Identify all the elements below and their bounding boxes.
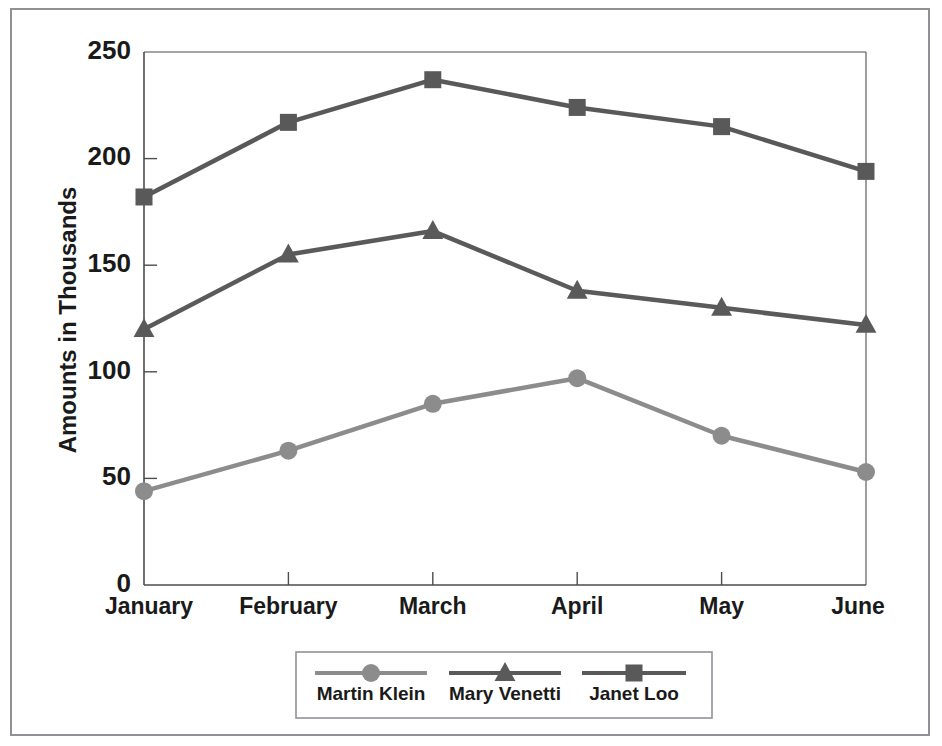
x-tick-label: March bbox=[399, 593, 467, 619]
series-martin-klein bbox=[135, 369, 875, 500]
legend-label: Mary Venetti bbox=[449, 683, 561, 704]
data-point-marker bbox=[422, 220, 443, 239]
x-axis-tick-marks bbox=[288, 572, 721, 585]
x-tick-label: February bbox=[239, 593, 338, 619]
data-point-marker bbox=[713, 427, 731, 445]
data-point-marker bbox=[135, 482, 153, 500]
data-point-marker bbox=[569, 99, 586, 116]
series-line bbox=[144, 231, 866, 329]
series-line bbox=[144, 378, 866, 491]
chart-page: Amounts in Thousands 050100150200250 Jan… bbox=[0, 0, 942, 746]
data-point-marker bbox=[858, 163, 875, 180]
data-point-marker bbox=[136, 188, 153, 205]
series-janet-loo bbox=[136, 71, 875, 205]
data-point-marker bbox=[713, 118, 730, 135]
y-tick-label: 250 bbox=[88, 35, 131, 65]
x-tick-label: January bbox=[105, 593, 193, 619]
circle-marker-icon bbox=[362, 664, 380, 682]
line-chart: Amounts in Thousands 050100150200250 Jan… bbox=[0, 0, 942, 746]
legend-label: Martin Klein bbox=[317, 683, 426, 704]
x-tick-label: April bbox=[551, 593, 603, 619]
data-point-marker bbox=[568, 369, 586, 387]
y-axis-label: Amounts in Thousands bbox=[54, 187, 81, 454]
data-point-marker bbox=[280, 114, 297, 131]
data-point-marker bbox=[857, 463, 875, 481]
legend-label: Janet Loo bbox=[589, 683, 679, 704]
x-tick-label: June bbox=[831, 593, 885, 619]
y-tick-label: 150 bbox=[88, 248, 131, 278]
series-line bbox=[144, 80, 866, 197]
x-axis-tick-labels: JanuaryFebruaryMarchAprilMayJune bbox=[105, 593, 885, 619]
data-point-marker bbox=[424, 71, 441, 88]
data-point-marker bbox=[424, 395, 442, 413]
x-tick-label: May bbox=[699, 593, 744, 619]
y-axis-tick-labels: 050100150200250 bbox=[88, 35, 131, 598]
y-axis-tick-marks bbox=[144, 159, 157, 479]
y-tick-label: 200 bbox=[88, 141, 131, 171]
series-layer bbox=[134, 71, 877, 500]
series-mary-venetti bbox=[134, 220, 877, 337]
y-tick-label: 50 bbox=[102, 461, 131, 491]
data-point-marker bbox=[279, 442, 297, 460]
y-tick-label: 100 bbox=[88, 355, 131, 385]
square-marker-icon bbox=[626, 665, 643, 682]
chart-svg: Amounts in Thousands 050100150200250 Jan… bbox=[0, 0, 942, 746]
